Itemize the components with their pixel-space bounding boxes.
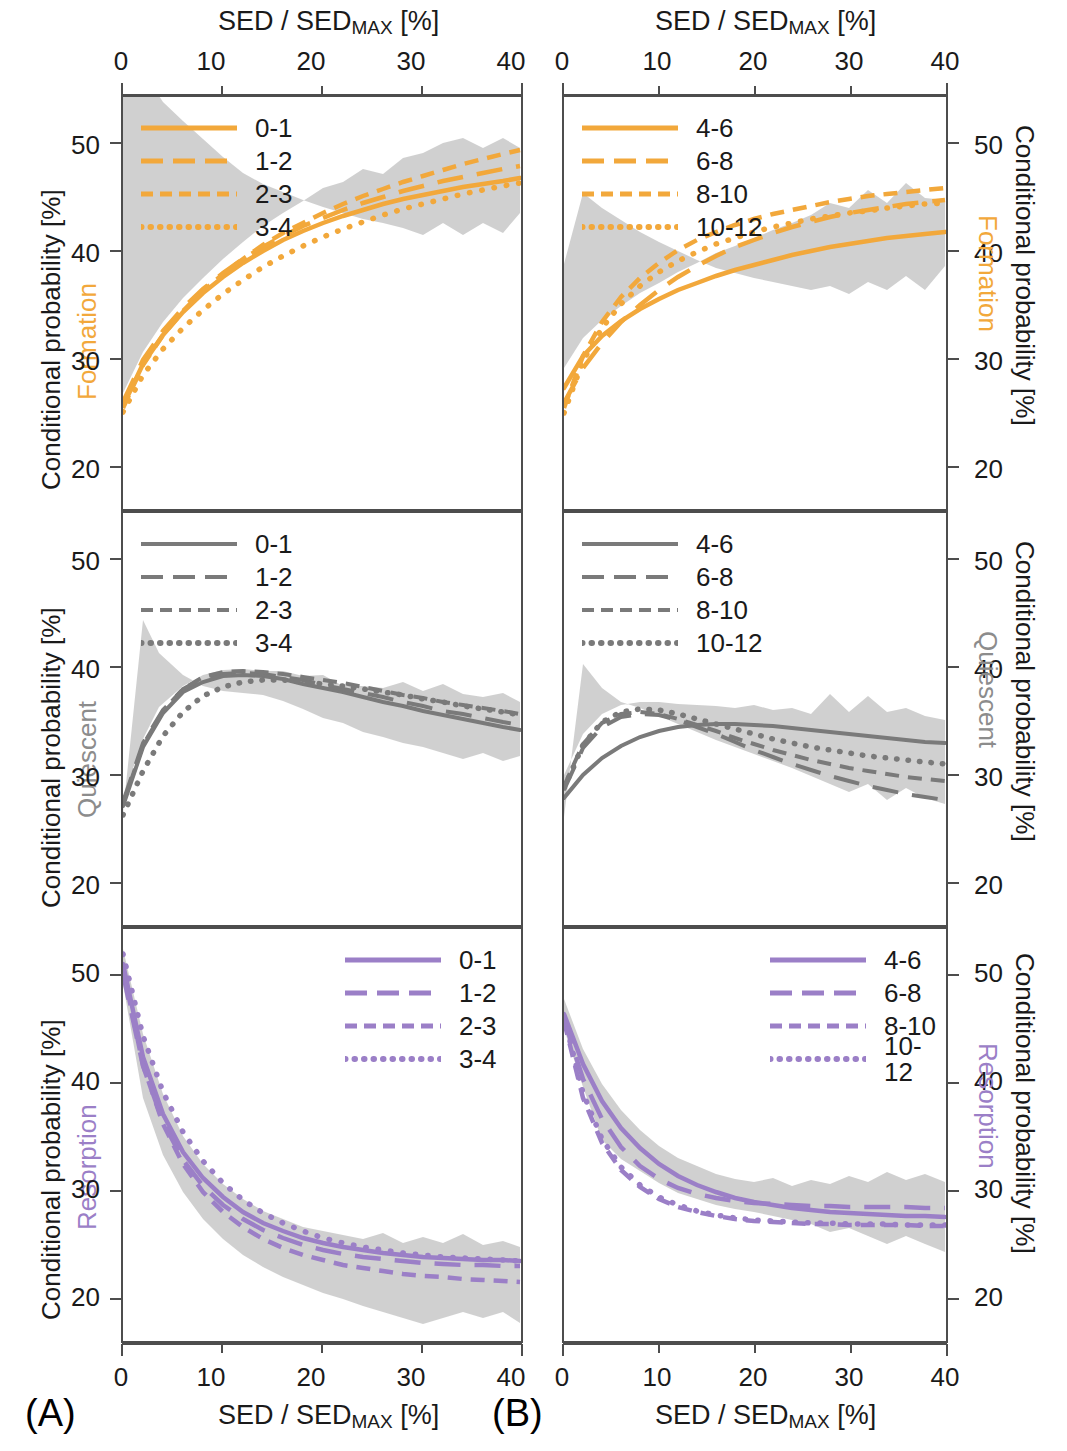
legend-label: 6-8: [696, 148, 734, 174]
panel-label-a: (A): [25, 1392, 76, 1435]
legend-b-formation: 4-6 6-8 8-10 10-12: [582, 111, 763, 243]
plot-b-formation: 4-6 6-8 8-10 10-12: [562, 95, 948, 511]
top-xtick-b-20: 20: [733, 46, 773, 77]
legend-swatch-dotted: [582, 222, 678, 232]
legend-item[interactable]: 10-12: [770, 1042, 946, 1075]
legend-item[interactable]: 6-8: [770, 976, 946, 1009]
legend-swatch-short-dash: [582, 189, 678, 199]
legend-item[interactable]: 4-6: [582, 527, 763, 560]
legend-item[interactable]: 3-4: [141, 626, 293, 659]
legend-item[interactable]: 2-3: [345, 1009, 497, 1042]
bottom-axis-title-a: SED / SEDMAX [%]: [218, 1400, 439, 1433]
top-axis-title-b: SED / SEDMAX [%]: [655, 6, 876, 39]
legend-swatch-long-dash: [345, 988, 441, 998]
legend-item[interactable]: 2-3: [141, 593, 293, 626]
ylabel-quiescent-b-main: Conditional probability [%]: [1009, 541, 1040, 842]
legend-label: 3-4: [459, 1046, 497, 1072]
legend-item[interactable]: 3-4: [141, 210, 293, 243]
legend-label: 10-12: [696, 214, 763, 240]
ytick-a-r-40: 40: [40, 1066, 100, 1097]
legend-swatch-solid: [345, 955, 441, 965]
plot-a-quiescent: 0-1 1-2 2-3 3-4: [121, 511, 523, 927]
ytick-b-f-20: 20: [974, 454, 1034, 485]
top-xtick-b-0: 0: [542, 46, 582, 77]
ylabel-formation-a-main: Conditional probability [%]: [36, 189, 67, 490]
ytick-a-r-50: 50: [40, 958, 100, 989]
legend-a-resorption: 0-1 1-2 2-3 3-4: [345, 943, 497, 1075]
ylabel-quiescent-a-row: Quiescent: [72, 701, 103, 818]
legend-b-quiescent: 4-6 6-8 8-10 10-12: [582, 527, 763, 659]
legend-label: 1-2: [255, 564, 293, 590]
top-xtick-a-10: 10: [191, 46, 231, 77]
ytickmarks-a-formation: [106, 95, 122, 511]
legend-label: 2-3: [255, 181, 293, 207]
legend-item[interactable]: 4-6: [770, 943, 946, 976]
legend-item[interactable]: 10-12: [582, 626, 763, 659]
plot-b-quiescent: 4-6 6-8 8-10 10-12: [562, 511, 948, 927]
legend-swatch-long-dash: [770, 988, 866, 998]
bottom-xtick-a-0: 0: [101, 1362, 141, 1393]
legend-label: 8-10: [696, 181, 748, 207]
top-axis-title-a: SED / SEDMAX [%]: [218, 6, 439, 39]
bottom-xtick-b-10: 10: [637, 1362, 677, 1393]
ytickmarks-a-resorption: [106, 927, 122, 1343]
bottom-xtick-b-30: 30: [829, 1362, 869, 1393]
uncertainty-band: [564, 664, 945, 817]
bottom-xtick-a-20: 20: [291, 1362, 331, 1393]
bottom-xtick-a-30: 30: [391, 1362, 431, 1393]
ytick-a-f-20: 20: [40, 454, 100, 485]
legend-label: 8-10: [696, 597, 748, 623]
legend-item[interactable]: 1-2: [141, 144, 293, 177]
ytickmarks-b-formation: [948, 95, 964, 511]
plot-b-resorption: 4-6 6-8 8-10 10-12: [562, 927, 948, 1343]
top-xtick-a-0: 0: [101, 46, 141, 77]
top-xtick-a-20: 20: [291, 46, 331, 77]
legend-item[interactable]: 0-1: [141, 111, 293, 144]
bottom-xtick-a-10: 10: [191, 1362, 231, 1393]
legend-item[interactable]: 4-6: [582, 111, 763, 144]
legend-item[interactable]: 6-8: [582, 560, 763, 593]
legend-item[interactable]: 3-4: [345, 1042, 497, 1075]
ytick-a-r-20: 20: [40, 1282, 100, 1313]
legend-label: 2-3: [459, 1013, 497, 1039]
legend-swatch-solid: [582, 539, 678, 549]
bottom-axis-spine-b: [562, 1343, 948, 1361]
legend-item[interactable]: 1-2: [141, 560, 293, 593]
legend-item[interactable]: 1-2: [345, 976, 497, 1009]
bottom-xtick-b-20: 20: [733, 1362, 773, 1393]
legend-item[interactable]: 8-10: [582, 177, 763, 210]
top-xtick-a-40: 40: [491, 46, 531, 77]
legend-swatch-dotted: [141, 638, 237, 648]
top-xtick-b-40: 40: [925, 46, 965, 77]
legend-swatch-short-dash: [582, 605, 678, 615]
legend-item[interactable]: 10-12: [582, 210, 763, 243]
legend-item[interactable]: 6-8: [582, 144, 763, 177]
legend-swatch-long-dash: [141, 572, 237, 582]
legend-label: 4-6: [696, 531, 734, 557]
legend-label: 10-12: [696, 630, 763, 656]
legend-label: 1-2: [459, 980, 497, 1006]
legend-swatch-short-dash: [141, 189, 237, 199]
ytick-b-r-20: 20: [974, 1282, 1034, 1313]
legend-item[interactable]: 2-3: [141, 177, 293, 210]
legend-label: 0-1: [255, 115, 293, 141]
ytick-a-q-40: 40: [40, 654, 100, 685]
ytick-a-q-20: 20: [40, 870, 100, 901]
legend-label: 4-6: [884, 947, 922, 973]
bottom-axis-title-b: SED / SEDMAX [%]: [655, 1400, 876, 1433]
legend-swatch-short-dash: [141, 605, 237, 615]
legend-a-quiescent: 0-1 1-2 2-3 3-4: [141, 527, 293, 659]
ylabel-formation-b-row: Formation: [972, 215, 1003, 332]
ylabel-formation-b-main: Conditional probability [%]: [1009, 125, 1040, 426]
legend-item[interactable]: 0-1: [345, 943, 497, 976]
top-axis-spine-a: [121, 78, 523, 96]
ylabel-resorption-a-row: Resorption: [72, 1104, 103, 1230]
legend-swatch-long-dash: [582, 572, 678, 582]
ytick-a-q-50: 50: [40, 546, 100, 577]
plot-a-resorption: 0-1 1-2 2-3 3-4: [121, 927, 523, 1343]
ytick-b-q-20: 20: [974, 870, 1034, 901]
bottom-xtick-a-40: 40: [491, 1362, 531, 1393]
legend-item[interactable]: 8-10: [582, 593, 763, 626]
legend-item[interactable]: 0-1: [141, 527, 293, 560]
ylabel-resorption-b-main: Conditional probability [%]: [1009, 953, 1040, 1254]
